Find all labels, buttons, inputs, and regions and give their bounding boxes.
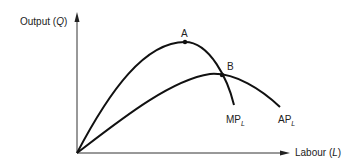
point-a-label: A xyxy=(181,29,188,39)
x-axis-symbol: L xyxy=(332,147,338,158)
y-axis-label-text: Output xyxy=(20,16,50,27)
mp-curve-label: MPL xyxy=(226,115,245,125)
ap-curve xyxy=(77,74,280,153)
point-b-marker xyxy=(220,73,224,77)
x-axis-label: Labour (L) xyxy=(295,148,341,158)
x-axis-arrow-icon xyxy=(280,151,290,156)
x-axis-label-text: Labour xyxy=(295,147,326,158)
point-b-label: B xyxy=(227,62,234,72)
point-a-marker xyxy=(183,40,187,44)
ap-label-text: AP xyxy=(278,114,291,125)
y-axis-symbol: Q xyxy=(56,16,64,27)
ap-label-subscript: L xyxy=(291,120,295,127)
y-axis-arrow-icon xyxy=(75,12,80,22)
ap-curve-label: APL xyxy=(278,115,295,125)
mp-label-subscript: L xyxy=(241,120,245,127)
y-axis-label: Output (Q) xyxy=(20,17,67,27)
mp-label-text: MP xyxy=(226,114,241,125)
